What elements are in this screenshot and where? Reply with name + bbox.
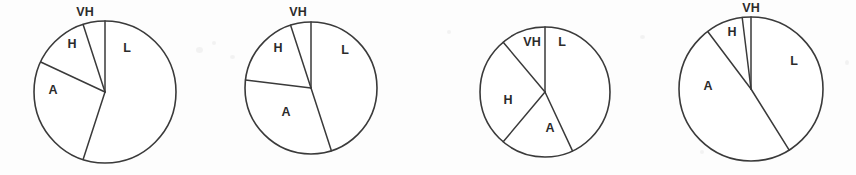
pie-chart-4: L VH H A [642, 0, 856, 175]
pie-4-label-A: A [703, 79, 712, 93]
pie-3-label-A: A [545, 121, 554, 135]
pie-1-label-VH: VH [76, 5, 93, 19]
pie-chart-2: L VH H A [214, 0, 428, 175]
pie-3-label-VH: VH [523, 35, 540, 49]
pie-3-label-L: L [558, 35, 566, 49]
pie-4-label-H: H [727, 25, 736, 39]
pie-2-label-L: L [341, 43, 349, 57]
pie-2-label-VH: VH [289, 5, 306, 19]
pie-chart-2-panel: L VH H A [214, 0, 428, 175]
pie-1-label-A: A [48, 83, 57, 97]
pie-4-label-L: L [790, 54, 798, 68]
pie-1-label-L: L [123, 41, 131, 55]
pie-4-label-VH: VH [742, 1, 759, 15]
pie-chart-3: L VH H A [428, 0, 642, 175]
pie-chart-3-panel: L VH H A [428, 0, 642, 175]
pie-chart-1: L VH H A [0, 0, 214, 175]
pie-1-label-H: H [67, 37, 76, 51]
pie-chart-figure: L VH H A L VH H A L [0, 0, 856, 175]
pie-2-label-A: A [281, 105, 290, 119]
pie-chart-1-panel: L VH H A [0, 0, 214, 175]
pie-chart-4-panel: L VH H A [642, 0, 856, 175]
pie-3-label-H: H [503, 93, 512, 107]
pie-2-label-H: H [273, 41, 282, 55]
